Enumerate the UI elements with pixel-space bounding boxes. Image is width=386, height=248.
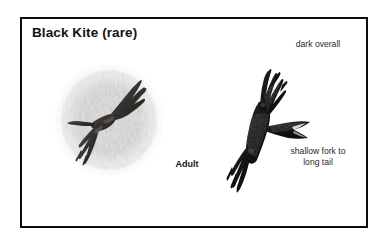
page-title: Black Kite (rare) [32, 25, 137, 40]
bird-silhouette-flight [214, 55, 322, 211]
bird-silhouette-adult [55, 64, 163, 176]
callout-shallow-fork: shallow fork to long tail [270, 146, 366, 169]
figure-flight-dark [214, 55, 322, 211]
callout-dark-overall: dark overall [270, 39, 366, 50]
plate-frame: Black Kite (rare) [20, 17, 368, 228]
figure-adult-soaring [55, 64, 163, 176]
field-guide-plate: Black Kite (rare) [0, 0, 386, 248]
figure-label-adult: Adult [157, 159, 217, 169]
